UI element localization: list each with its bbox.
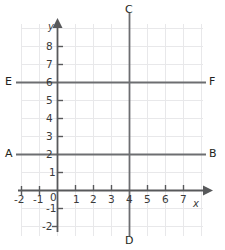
x-tick-label-neg1: -1 — [33, 194, 43, 205]
coordinate-grid-figure: y x 8 7 6 5 4 3 2 1 -1 -2 0 -2 -1 1 2 3 … — [0, 0, 225, 250]
point-label-b: B — [209, 148, 217, 159]
x-tick-label-3: 3 — [108, 194, 115, 205]
x-tick-label-2: 2 — [90, 194, 97, 205]
y-axis-arrow — [53, 18, 63, 28]
y-tick-label-3: 3 — [46, 131, 53, 142]
plot-canvas — [0, 0, 225, 250]
y-tick-label-neg2: -2 — [42, 221, 52, 232]
x-tick-label-4: 4 — [126, 194, 133, 205]
x-tick-label-neg2: -2 — [14, 194, 24, 205]
y-tick-label-8: 8 — [46, 41, 53, 52]
point-label-c: C — [125, 4, 133, 15]
point-label-f: F — [209, 76, 215, 87]
x-axis-label: x — [193, 199, 199, 209]
y-tick-label-1: 1 — [49, 167, 56, 178]
point-label-d: D — [125, 235, 133, 246]
x-tick-label-6: 6 — [162, 194, 169, 205]
origin-label: 0 — [50, 192, 57, 203]
y-axis-label: y — [48, 22, 54, 32]
point-label-a: A — [5, 148, 13, 159]
y-tick-label-7: 7 — [46, 59, 53, 70]
x-axis-arrow — [203, 186, 213, 196]
y-tick-label-2: 2 — [46, 149, 53, 160]
x-tick-label-7: 7 — [180, 194, 187, 205]
y-tick-label-6: 6 — [46, 77, 53, 88]
x-tick-label-5: 5 — [144, 194, 151, 205]
point-label-e: E — [5, 76, 12, 87]
y-tick-label-5: 5 — [46, 95, 53, 106]
x-tick-label-1: 1 — [73, 194, 80, 205]
y-tick-label-neg1: -1 — [46, 203, 56, 214]
y-tick-label-4: 4 — [46, 113, 53, 124]
